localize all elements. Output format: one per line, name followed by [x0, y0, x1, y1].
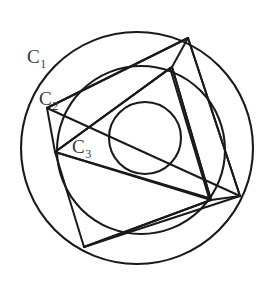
- label-c1-subscript: 1: [40, 57, 46, 71]
- middle-triangle: [55, 67, 211, 200]
- outer-triangle: [47, 38, 240, 196]
- segment-spoke-bottom: [84, 200, 211, 247]
- inner-triangle: [55, 68, 209, 198]
- label-c3-base: C: [72, 136, 85, 157]
- label-c2-base: C: [39, 88, 52, 109]
- label-c1: C1: [27, 47, 46, 70]
- label-c1-base: C: [27, 46, 40, 67]
- label-c3: C3: [72, 137, 91, 160]
- segment-spoke-bottom-left: [55, 152, 84, 247]
- segment-spoke-left: [47, 108, 55, 152]
- nested-circles-figure: [0, 0, 269, 282]
- label-c2: C2: [39, 89, 58, 112]
- label-c3-subscript: 3: [85, 147, 91, 161]
- figure-container: C1 C2 C3: [0, 0, 269, 282]
- label-c2-subscript: 2: [52, 99, 58, 113]
